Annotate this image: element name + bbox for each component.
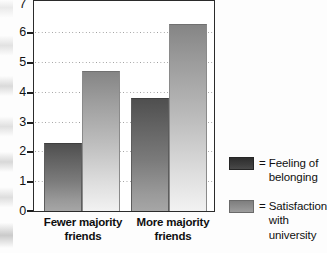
legend-label-feeling-of-belonging: Feeling of belonging xyxy=(269,156,319,185)
legend-item-feeling-of-belonging: = Feeling of belonging xyxy=(229,156,327,185)
legend-label-2-line2: with university xyxy=(269,214,317,240)
y-tick-label-1: 1 xyxy=(10,175,26,188)
bar-feeling-of-belonging-fewer xyxy=(44,143,82,211)
legend-label-2-line1: Satisfaction xyxy=(269,200,327,212)
y-tick-label-6: 6 xyxy=(10,26,26,39)
x-category-label-fewer-majority-friends: Fewer majority friends xyxy=(31,216,135,243)
legend-label-1-line1: Feeling of xyxy=(269,157,319,169)
legend-equals-sign-2: = xyxy=(259,199,266,213)
y-tick-label-0: 0 xyxy=(10,205,26,218)
y-tick-label-5: 5 xyxy=(10,56,26,69)
legend-swatch-feeling-of-belonging xyxy=(229,157,254,170)
legend-swatch-satisfaction-with-university xyxy=(229,200,254,213)
x-category-label-more-majority-friends: More majority friends xyxy=(124,216,222,243)
y-tick-label-2: 2 xyxy=(10,145,26,158)
y-tick-label-3: 3 xyxy=(10,116,26,129)
legend-label-satisfaction-with-university: Satisfaction with university xyxy=(269,199,327,242)
x-category-label-more-line1: More majority xyxy=(124,216,222,230)
bar-satisfaction-with-university-more xyxy=(169,24,207,211)
legend: = Feeling of belonging = Satisfaction wi… xyxy=(229,156,327,253)
legend-equals-sign-1: = xyxy=(259,156,266,170)
y-tick-label-7: 7 xyxy=(10,0,26,11)
bar-feeling-of-belonging-more xyxy=(131,98,169,211)
x-category-label-fewer-line1: Fewer majority xyxy=(31,216,135,230)
legend-label-1-line2: belonging xyxy=(269,171,318,183)
x-category-label-fewer-line2: friends xyxy=(31,230,135,244)
bar-satisfaction-with-university-fewer xyxy=(82,71,120,211)
x-category-label-more-line2: friends xyxy=(124,230,222,244)
legend-item-satisfaction-with-university: = Satisfaction with university xyxy=(229,199,327,242)
y-tick-label-4: 4 xyxy=(10,86,26,99)
